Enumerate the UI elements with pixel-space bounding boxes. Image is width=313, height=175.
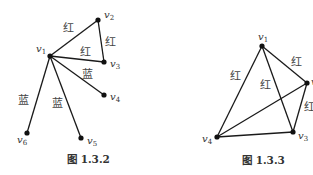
edge-color-label: 红 xyxy=(105,36,116,49)
vertex-label: v2 xyxy=(104,9,114,22)
figure-1-3-2: 红红红蓝蓝蓝v1v2v3v4v5v6图 1.3.2 xyxy=(17,9,121,165)
vertex-v4 xyxy=(101,92,106,97)
vertex-v5 xyxy=(78,135,83,140)
vertex-label: v3 xyxy=(298,130,308,143)
vertex-v6 xyxy=(24,130,29,135)
vertex-label: v5 xyxy=(87,135,97,148)
vertex-v2 xyxy=(95,17,100,22)
edge-color-label: 蓝 xyxy=(52,97,63,110)
graph-diagrams: 红红红蓝蓝蓝v1v2v3v4v5v6图 1.3.2 红红红红v1v2v3v4图 … xyxy=(0,0,313,175)
vertex-label: v3 xyxy=(110,58,120,71)
figure-1-3-3: 红红红红v1v2v3v4图 1.3.3 xyxy=(202,31,313,166)
edge-v2-v3 xyxy=(98,20,104,62)
edge-color-label: 蓝 xyxy=(82,68,93,81)
edge-v1-v4 xyxy=(50,56,104,95)
vertex-v3 xyxy=(101,59,106,64)
edge-v1-v6 xyxy=(27,56,50,133)
vertex-label: v4 xyxy=(202,133,213,146)
vertex-label: v1 xyxy=(36,43,46,56)
figure-caption: 图 1.3.2 xyxy=(67,153,110,165)
vertex-v4 xyxy=(214,134,219,139)
vertex-v1 xyxy=(259,43,264,48)
vertex-v3 xyxy=(290,129,295,134)
vertex-label: v2 xyxy=(311,76,313,89)
edge-color-label: 红 xyxy=(260,79,271,92)
vertex-label: v4 xyxy=(110,91,121,104)
edge-color-label: 红 xyxy=(230,70,241,83)
edge-color-label: 红 xyxy=(63,22,74,35)
edge-color-label: 蓝 xyxy=(18,94,29,107)
edge-v3-v4 xyxy=(217,132,293,137)
edge-color-label: 红 xyxy=(80,46,91,59)
vertex-label: v6 xyxy=(17,134,28,147)
edge-color-label: 红 xyxy=(304,101,313,114)
vertex-label: v1 xyxy=(258,31,268,44)
vertex-v2 xyxy=(304,80,309,85)
figure-caption: 图 1.3.3 xyxy=(242,154,285,166)
vertex-v1 xyxy=(47,53,52,58)
edge-color-label: 红 xyxy=(291,56,302,69)
